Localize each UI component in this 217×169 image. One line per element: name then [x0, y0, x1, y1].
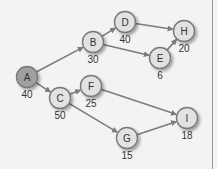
node-d: D40 [115, 12, 136, 45]
node-label: E [157, 53, 164, 64]
node-value: 20 [178, 43, 190, 54]
node-value: 50 [54, 110, 66, 121]
node-h: H20 [174, 21, 195, 54]
node-label: A [24, 72, 31, 83]
node-label: F [88, 81, 94, 92]
node-value: 25 [85, 98, 97, 109]
node-label: D [121, 17, 128, 28]
edge-d-h [135, 24, 172, 30]
edge-b-d [102, 28, 115, 36]
node-value: 15 [121, 150, 133, 161]
node-value: 30 [87, 54, 99, 65]
node-label: I [186, 113, 189, 124]
diagram-canvas: A40B30C50D40E6F25G15H20I18 [0, 0, 217, 169]
node-value: 40 [21, 89, 33, 100]
right-border-divider [212, 0, 213, 169]
node-value: 18 [181, 130, 193, 141]
edge-b-e [103, 44, 149, 55]
node-f: F25 [81, 76, 102, 109]
node-value: 6 [157, 70, 163, 81]
node-a: A40 [17, 67, 38, 100]
node-label: H [180, 26, 187, 37]
edge-f-i [101, 89, 176, 114]
node-label: C [56, 93, 63, 104]
node-e: E6 [150, 48, 171, 81]
network-graph: A40B30C50D40E6F25G15H20I18 [0, 0, 217, 169]
node-g: G15 [117, 128, 138, 161]
edge-c-f [70, 90, 80, 94]
node-c: C50 [50, 88, 71, 121]
node-label: B [90, 37, 97, 48]
node-b: B30 [83, 32, 104, 65]
edge-g-i [137, 122, 176, 135]
node-i: I18 [177, 108, 198, 141]
node-label: G [123, 133, 131, 144]
edge-a-b [36, 47, 83, 72]
node-value: 40 [119, 34, 131, 45]
edge-e-h [167, 40, 176, 51]
edge-a-c [36, 83, 50, 92]
